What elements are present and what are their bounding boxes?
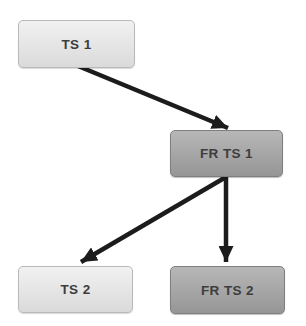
arrow-ts1-to-frts1 xyxy=(78,66,228,128)
node-ts1-label: TS 1 xyxy=(61,37,91,52)
node-fr-ts2: FR TS 2 xyxy=(170,266,285,314)
node-fr-ts2-label: FR TS 2 xyxy=(201,283,254,298)
arrow-frts1-to-ts2 xyxy=(81,177,226,262)
node-fr-ts1-label: FR TS 1 xyxy=(200,146,253,161)
node-fr-ts1: FR TS 1 xyxy=(170,130,283,177)
node-ts2-label: TS 2 xyxy=(60,282,90,297)
node-ts1: TS 1 xyxy=(18,20,135,68)
node-ts2: TS 2 xyxy=(18,266,133,313)
diagram-canvas: TS 1 FR TS 1 TS 2 FR TS 2 xyxy=(0,0,306,326)
